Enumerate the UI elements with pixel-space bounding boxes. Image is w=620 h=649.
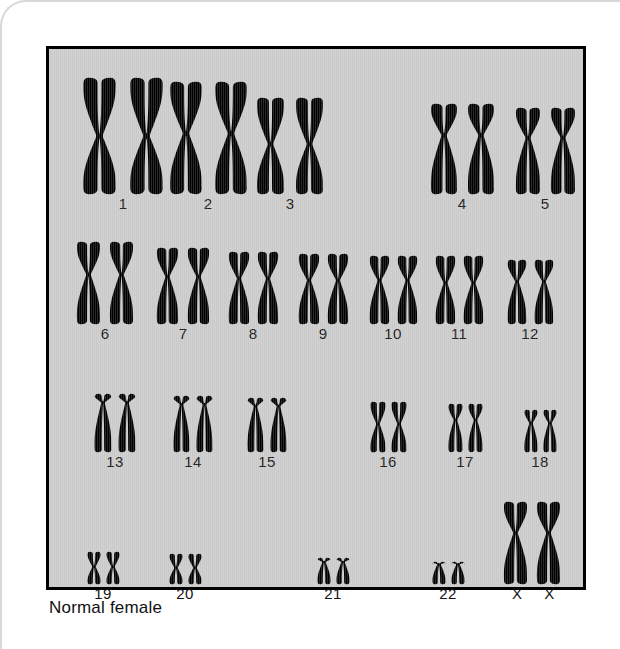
chromatid-group bbox=[316, 557, 350, 585]
chromosome-label: 17 bbox=[448, 454, 483, 470]
chromosome-glyph bbox=[106, 551, 120, 585]
chromosome-glyph bbox=[188, 553, 202, 585]
chromosome-pair-16[interactable]: 16 bbox=[370, 401, 407, 470]
chromosome-glyph bbox=[187, 247, 210, 325]
chromosome-glyph bbox=[543, 409, 557, 453]
chromosome-glyph bbox=[317, 557, 331, 585]
chromosome-glyph bbox=[467, 103, 495, 195]
chromosome-pair-1[interactable]: 1 bbox=[82, 77, 164, 212]
chromosome-glyph bbox=[369, 255, 390, 325]
chromatid-group bbox=[86, 551, 120, 585]
chromatid-group bbox=[507, 259, 554, 325]
chromosome-label: 18 bbox=[523, 454, 557, 470]
chromosome-glyph bbox=[228, 251, 250, 325]
chromosome-pair-9[interactable]: 9 bbox=[298, 253, 349, 342]
chromosome-pair-6[interactable]: 6 bbox=[76, 241, 134, 342]
chromatid-group bbox=[76, 241, 134, 325]
chromosome-label: 3 bbox=[256, 196, 324, 212]
chromosome-glyph bbox=[94, 393, 112, 453]
chromosome-glyph bbox=[435, 255, 456, 325]
chromosome-glyph bbox=[76, 241, 101, 325]
chromosome-pair-2[interactable]: 2 bbox=[169, 81, 248, 212]
chromosome-pair-19[interactable]: 19 bbox=[86, 551, 120, 602]
chromatid-group bbox=[247, 397, 287, 453]
chromatid-group bbox=[523, 409, 557, 453]
chromosome-glyph bbox=[129, 77, 164, 195]
chromosome-pair-7[interactable]: 7 bbox=[156, 247, 210, 342]
chromosome-label: X X bbox=[503, 586, 561, 602]
chromosome-label: 22 bbox=[431, 586, 465, 602]
chromosome-pair-5[interactable]: 5 bbox=[515, 107, 576, 212]
chromosome-label: 8 bbox=[228, 326, 279, 342]
chromosome-glyph bbox=[432, 561, 446, 585]
figure-card: 12345678910111213141516171819202122X X N… bbox=[0, 0, 620, 649]
chromosome-glyph bbox=[295, 97, 324, 195]
chromosome-glyph bbox=[298, 253, 320, 325]
chromosome-glyph bbox=[169, 553, 183, 585]
chromosome-pair-15[interactable]: 15 bbox=[247, 397, 287, 470]
chromatid-group bbox=[156, 247, 210, 325]
chromosome-label: 6 bbox=[76, 326, 134, 342]
chromosome-glyph bbox=[468, 403, 483, 453]
chromosome-glyph bbox=[336, 557, 350, 585]
chromatid-group bbox=[298, 253, 349, 325]
chromatid-group bbox=[82, 77, 164, 195]
chromosome-pair-10[interactable]: 10 bbox=[369, 255, 418, 342]
chromosome-label: 9 bbox=[298, 326, 349, 342]
chromosome-pair-x[interactable]: X X bbox=[503, 501, 561, 602]
chromosome-glyph bbox=[524, 409, 538, 453]
chromatid-group bbox=[431, 561, 465, 585]
chromosome-pair-8[interactable]: 8 bbox=[228, 251, 279, 342]
chromosome-label: 16 bbox=[370, 454, 407, 470]
chromosome-label: 14 bbox=[173, 454, 213, 470]
chromatid-group bbox=[370, 401, 407, 453]
chromosome-pair-11[interactable]: 11 bbox=[435, 255, 484, 342]
karyotype-panel: 12345678910111213141516171819202122X X bbox=[46, 46, 586, 590]
chromosome-label: 7 bbox=[156, 326, 210, 342]
chromosome-pair-17[interactable]: 17 bbox=[448, 403, 483, 470]
chromosome-glyph bbox=[214, 81, 248, 195]
chromosome-glyph bbox=[451, 561, 465, 585]
chromosome-label: 11 bbox=[435, 326, 484, 342]
chromatid-group bbox=[228, 251, 279, 325]
chromosome-glyph bbox=[257, 251, 279, 325]
chromosome-glyph bbox=[430, 103, 458, 195]
chromosome-glyph bbox=[463, 255, 484, 325]
chromosome-label: 20 bbox=[168, 586, 202, 602]
chromosome-pair-13[interactable]: 13 bbox=[94, 393, 136, 470]
chromosome-glyph bbox=[169, 81, 203, 195]
chromosome-pair-4[interactable]: 4 bbox=[430, 103, 495, 212]
chromosome-pair-21[interactable]: 21 bbox=[316, 557, 350, 602]
chromatid-group bbox=[435, 255, 484, 325]
chromatid-group bbox=[503, 501, 561, 585]
chromatid-group bbox=[256, 97, 324, 195]
chromosome-glyph bbox=[448, 403, 463, 453]
chromatid-group bbox=[448, 403, 483, 453]
chromatid-group bbox=[168, 553, 202, 585]
chromosome-glyph bbox=[550, 107, 576, 195]
chromosome-glyph bbox=[196, 395, 213, 453]
chromosome-glyph bbox=[118, 393, 136, 453]
chromosome-pair-12[interactable]: 12 bbox=[507, 259, 554, 342]
chromosome-pair-14[interactable]: 14 bbox=[173, 395, 213, 470]
chromosome-label: 4 bbox=[430, 196, 495, 212]
chromosome-glyph bbox=[156, 247, 179, 325]
chromosome-glyph bbox=[536, 501, 561, 585]
chromosome-pair-22[interactable]: 22 bbox=[431, 561, 465, 602]
chromatid-group bbox=[430, 103, 495, 195]
chromosome-glyph bbox=[256, 97, 285, 195]
chromosome-glyph bbox=[270, 397, 287, 453]
figure-caption: Normal female bbox=[49, 598, 162, 618]
chromosome-glyph bbox=[327, 253, 349, 325]
chromosome-pair-3[interactable]: 3 bbox=[256, 97, 324, 212]
chromatid-group bbox=[94, 393, 136, 453]
chromosome-label: 13 bbox=[94, 454, 136, 470]
chromosome-label: 1 bbox=[82, 196, 164, 212]
chromosome-glyph bbox=[370, 401, 386, 453]
chromosome-glyph bbox=[503, 501, 528, 585]
chromosome-label: 15 bbox=[247, 454, 287, 470]
chromosome-pair-20[interactable]: 20 bbox=[168, 553, 202, 602]
chromosome-pair-18[interactable]: 18 bbox=[523, 409, 557, 470]
chromatid-group bbox=[369, 255, 418, 325]
chromosome-glyph bbox=[515, 107, 541, 195]
